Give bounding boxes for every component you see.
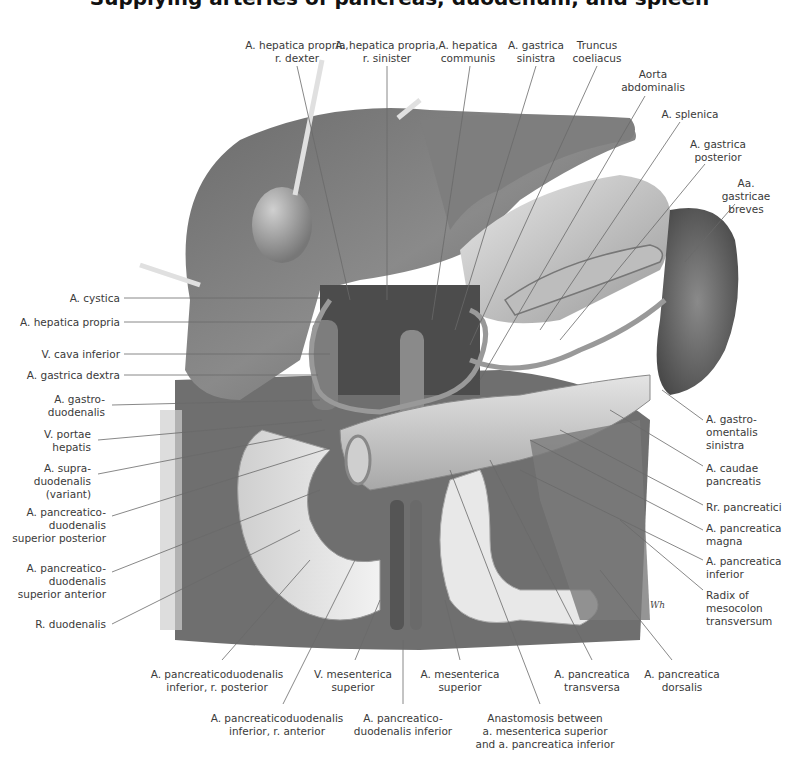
label-cystica: A. cystica (70, 292, 120, 305)
label-a-mesenterica-superior: A. mesenterica superior (421, 668, 500, 694)
anatomical-figure: Supplying arteries of pancreas, duodenum… (0, 0, 799, 768)
smv (390, 500, 404, 630)
label-supraduodenalis: A. supra- duodenalis (variant) (34, 462, 91, 501)
label-v-mesenterica-superior: V. mesenterica superior (314, 668, 392, 694)
label-hepatica-propria-sinister: A. hepatica propria, r. sinister (335, 39, 438, 65)
artist-signature: Wh (650, 600, 665, 610)
label-pancreatica-transversa: A. pancreatica transversa (554, 668, 629, 694)
label-splenica: A. splenica (662, 108, 719, 121)
spleen (657, 208, 739, 395)
label-pd-inferior: A. pancreatico- duodenalis inferior (354, 712, 452, 738)
label-truncus-coeliacus: Truncus coeliacus (573, 39, 622, 65)
label-hepatica-propria-dexter: A. hepatica propria, r. dexter (245, 39, 348, 65)
label-gastroduodenalis: A. gastro- duodenalis (48, 393, 105, 419)
body-wall (160, 410, 182, 630)
label-hepatica-propria: A. hepatica propria (20, 316, 120, 329)
label-pancreatica-magna: A. pancreatica magna (706, 522, 781, 548)
gallbladder (252, 187, 312, 263)
label-v-cava-inferior: V. cava inferior (42, 348, 120, 361)
label-gastrica-dextra: A. gastrica dextra (27, 369, 120, 382)
label-hepatica-communis: A. hepatica communis (438, 39, 497, 65)
label-pd-inferior-posterior: A. pancreaticoduodenalis inferior, r. po… (151, 668, 284, 694)
label-anastomosis: Anastomosis between a. mesenterica super… (476, 712, 615, 751)
label-radix-mesocolon: Radix of mesocolon transversum (706, 589, 772, 628)
label-rr-pancreatici: Rr. pancreatici (706, 501, 782, 514)
label-pancreatica-dorsalis: A. pancreatica dorsalis (644, 668, 719, 694)
label-gastrica-sinistra: A. gastrica sinistra (508, 39, 564, 65)
label-r-duodenalis: R. duodenalis (35, 618, 106, 631)
label-gastricae-breves: Aa. gastricae breves (720, 177, 773, 216)
label-pd-superior-posterior: A. pancreatico- duodenalis superior post… (12, 506, 106, 545)
label-aorta-abdominalis: Aorta abdominalis (621, 68, 685, 94)
label-v-portae-hepatis: V. portae hepatis (44, 428, 91, 454)
sma (410, 500, 422, 630)
label-pancreatica-inferior: A. pancreatica inferior (706, 555, 781, 581)
label-gastrica-posterior: A. gastrica posterior (690, 138, 746, 164)
label-pd-inferior-anterior: A. pancreaticoduodenalis inferior, r. an… (211, 712, 344, 738)
label-pd-superior-anterior: A. pancreatico- duodenalis superior ante… (18, 562, 106, 601)
label-caudae-pancreatis: A. caudae pancreatis (706, 462, 761, 488)
duodenum-cut-end (346, 436, 370, 484)
label-gastroomentalis-sinistra: A. gastro- omentalis sinistra (706, 413, 758, 452)
